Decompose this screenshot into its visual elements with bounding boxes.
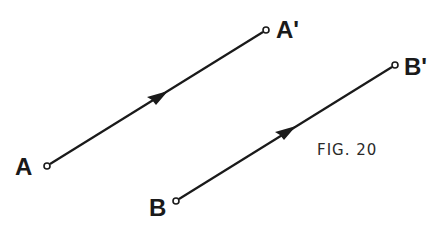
vector-bb-prime: B B' (149, 53, 427, 221)
label-a: A (15, 153, 32, 180)
point-a-prime (263, 27, 269, 33)
label-b: B (149, 194, 166, 221)
point-a (44, 163, 50, 169)
label-a-prime: A' (276, 16, 299, 43)
figure-canvas: A A' B B' FIG. 20 (0, 0, 434, 229)
point-b-prime (392, 62, 398, 68)
label-b-prime: B' (404, 53, 427, 80)
vector-aa-prime: A A' (15, 16, 299, 180)
figure-caption: FIG. 20 (317, 141, 377, 159)
point-b (173, 198, 179, 204)
